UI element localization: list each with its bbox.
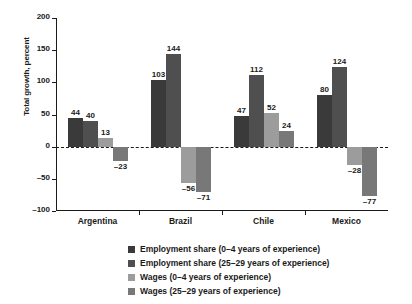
bar-group: 444013–23: [68, 18, 128, 211]
x-axis-category-label: Argentina: [53, 216, 143, 226]
plot-area: 200150100500–50–100444013–23103144–56–71…: [56, 18, 388, 211]
bar[interactable]: [68, 118, 83, 146]
legend-swatch-icon: [128, 288, 135, 295]
bar[interactable]: [166, 54, 181, 147]
legend-swatch-icon: [128, 246, 135, 253]
legend-item[interactable]: Wages (25–29 years of experience): [128, 284, 329, 298]
x-axis-group-separator: [305, 211, 306, 215]
bar-group: 103144–56–71: [151, 18, 211, 211]
y-axis-line: [56, 18, 57, 211]
bar[interactable]: [332, 67, 347, 147]
legend-swatch-icon: [128, 260, 135, 267]
bar[interactable]: [317, 95, 332, 146]
bar-group: 80124–28–77: [317, 18, 377, 211]
y-axis-tick-label: 0: [46, 141, 50, 150]
bar[interactable]: [181, 147, 196, 183]
bar-value-label: –77: [353, 197, 387, 206]
x-axis-category-label: Brazil: [136, 216, 226, 226]
legend-item-label: Employment share (0–4 years of experienc…: [140, 245, 320, 254]
bar-value-label: 13: [89, 128, 123, 137]
bar-value-label: 40: [74, 111, 108, 120]
legend-item[interactable]: Wages (0–4 years of experience): [128, 270, 329, 284]
x-axis-group-separator: [139, 211, 140, 215]
y-axis-tick-label: 100: [37, 76, 50, 85]
bar-value-label: 24: [270, 121, 304, 130]
y-axis-tick-label: 200: [37, 12, 50, 21]
bar-value-label: –71: [187, 193, 221, 202]
y-axis-tick-label: –50: [37, 173, 50, 182]
chart-figure: Total growth, percent 200150100500–50–10…: [0, 0, 412, 304]
bar-group: 471125224: [234, 18, 294, 211]
legend-item-label: Employment share (25–29 years of experie…: [140, 259, 329, 268]
y-axis-tick-label: 150: [37, 44, 50, 53]
bar[interactable]: [347, 147, 362, 165]
legend-swatch-icon: [128, 274, 135, 281]
bar-value-label: 144: [157, 44, 191, 53]
x-axis-category-label: Chile: [219, 216, 309, 226]
y-axis-tick: [52, 179, 56, 180]
x-axis-group-separator: [222, 211, 223, 215]
bar[interactable]: [234, 116, 249, 146]
legend-item-label: Wages (0–4 years of experience): [140, 273, 271, 282]
bar[interactable]: [196, 147, 211, 193]
legend-item[interactable]: Employment share (0–4 years of experienc…: [128, 242, 329, 256]
y-axis-tick: [52, 82, 56, 83]
bar[interactable]: [98, 138, 113, 146]
y-axis-tick: [52, 115, 56, 116]
bar-value-label: –23: [104, 162, 138, 171]
bar-value-label: 124: [323, 57, 357, 66]
chart-legend: Employment share (0–4 years of experienc…: [128, 242, 329, 298]
bar[interactable]: [362, 147, 377, 197]
bar[interactable]: [279, 131, 294, 146]
bar-value-label: 112: [240, 65, 274, 74]
y-axis-title: Total growth, percent: [22, 7, 31, 147]
x-axis-category-label: Mexico: [302, 216, 392, 226]
y-axis-tick-label: 50: [41, 109, 50, 118]
bar[interactable]: [113, 147, 128, 162]
bar[interactable]: [151, 80, 166, 146]
y-axis-tick: [52, 50, 56, 51]
y-axis-tick-label: –100: [32, 205, 50, 214]
legend-item[interactable]: Employment share (25–29 years of experie…: [128, 256, 329, 270]
legend-item-label: Wages (25–29 years of experience): [140, 287, 280, 296]
y-axis-tick: [52, 18, 56, 19]
y-axis-tick: [52, 211, 56, 212]
bar-value-label: 52: [255, 103, 289, 112]
